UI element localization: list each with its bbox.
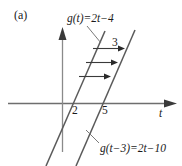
equation-label-g-t-minus-3: g(t−3)=2t−10	[100, 143, 166, 155]
x-axis	[8, 100, 177, 108]
x-axis-arrowhead-icon	[164, 100, 177, 108]
leader-line-top	[87, 26, 101, 43]
x-axis-tick-label-2: 2	[72, 105, 78, 117]
x-axis-tick-label-5: 5	[102, 105, 108, 117]
shift-amount-label: 3	[112, 37, 118, 49]
equation-label-g-t: g(t)=2t−4	[67, 13, 114, 25]
figure-panel-a: (a) g(t)=2t−4 g(t−3)=2t−10 3 2 5 t	[0, 0, 182, 166]
shift-arrow-bottom-head-icon	[104, 74, 111, 80]
panel-label: (a)	[14, 9, 27, 21]
line-g-t	[46, 31, 105, 166]
shift-arrow-middle-head-icon	[111, 60, 118, 66]
y-axis-arrowhead-icon	[59, 27, 67, 40]
shift-arrow-top-head-icon	[118, 46, 125, 52]
leader-line-bottom	[86, 130, 99, 143]
x-axis-variable-label: t	[159, 108, 162, 120]
